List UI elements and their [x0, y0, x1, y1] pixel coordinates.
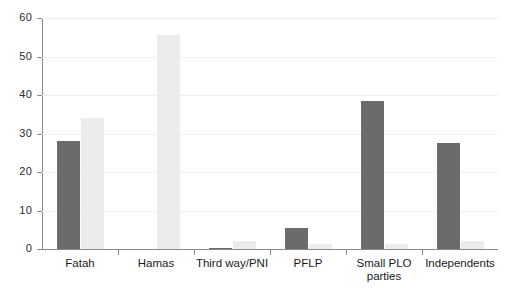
x-axis-category-label: Small PLOparties	[346, 257, 422, 283]
gridline	[42, 95, 498, 96]
bar	[81, 118, 104, 249]
bar	[385, 244, 408, 249]
bar	[309, 244, 332, 249]
y-tick-label: 60	[2, 12, 32, 23]
x-axis-category-label-line: Independents	[422, 257, 498, 270]
y-tick-label: 20	[2, 166, 32, 177]
x-axis-category-label-line: Third way/PNI	[194, 257, 270, 270]
x-tick-mark	[118, 250, 119, 255]
x-axis-category-label: Third way/PNI	[194, 257, 270, 270]
y-tick-label: 40	[2, 89, 32, 100]
x-tick-mark	[270, 250, 271, 255]
bar-chart: 0102030405060 FatahHamasThird way/PNIPFL…	[0, 0, 513, 291]
y-tick-label: 10	[2, 205, 32, 216]
bar	[209, 248, 232, 249]
x-axis-category-label-line: PFLP	[270, 257, 346, 270]
bar	[157, 35, 180, 249]
gridline	[42, 211, 498, 212]
x-axis-category-label-line: Small PLO	[346, 257, 422, 270]
x-tick-mark	[346, 250, 347, 255]
x-axis-category-label: Fatah	[42, 257, 118, 270]
x-axis-category-label: PFLP	[270, 257, 346, 270]
bar	[57, 141, 80, 249]
plot-area	[42, 18, 498, 249]
bar	[461, 241, 484, 249]
x-axis-category-label-line: Fatah	[42, 257, 118, 270]
bar	[233, 241, 256, 249]
x-axis-category-label-line: parties	[346, 270, 422, 283]
x-tick-mark	[194, 250, 195, 255]
x-axis-category-label: Independents	[422, 257, 498, 270]
x-axis-category-label-line: Hamas	[118, 257, 194, 270]
gridline	[42, 134, 498, 135]
bar	[285, 228, 308, 249]
x-axis-category-label: Hamas	[118, 257, 194, 270]
x-tick-mark	[422, 250, 423, 255]
y-tick-label: 50	[2, 51, 32, 62]
gridline	[42, 172, 498, 173]
gridline	[42, 18, 498, 19]
gridline	[42, 57, 498, 58]
bar	[361, 101, 384, 249]
y-tick-label: 30	[2, 128, 32, 139]
y-tick-label: 0	[2, 243, 32, 254]
bar	[437, 143, 460, 249]
